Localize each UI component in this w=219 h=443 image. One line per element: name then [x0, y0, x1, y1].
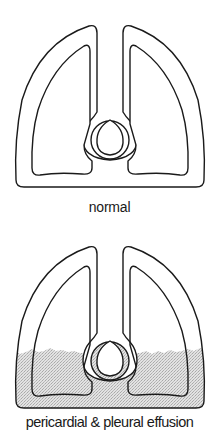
- diagram-effusion: pericardial & pleural effusion: [0, 221, 219, 443]
- thorax-effusion-figure: [0, 221, 219, 421]
- caption-effusion: pericardial & pleural effusion: [0, 414, 219, 430]
- diagram-normal: normal: [0, 0, 219, 220]
- caption-normal: normal: [0, 199, 219, 215]
- thorax-normal-figure: [0, 0, 219, 200]
